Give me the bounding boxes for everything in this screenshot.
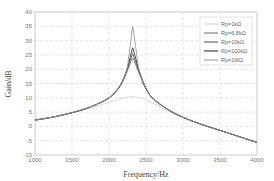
y-tick-label: 25 — [25, 52, 32, 58]
y-tick-label: -5 — [27, 138, 33, 144]
y-tick-label: 5 — [29, 109, 33, 115]
x-tick-label: 2000 — [102, 157, 116, 163]
y-tick-label: 30 — [25, 38, 32, 44]
legend: Rp=1kΩRp=6.8kΩRp=10kΩRp=100kΩRp=1MΩ — [200, 17, 252, 65]
legend-label: Rp=6.8kΩ — [221, 30, 246, 36]
y-tick-label: 35 — [25, 23, 32, 29]
x-tick-label: 3500 — [213, 157, 227, 163]
x-axis-label: Frequency/Hz — [123, 170, 169, 179]
x-tick-label: 1500 — [65, 157, 79, 163]
x-tick-label: 2500 — [139, 157, 153, 163]
gain-frequency-chart: -10-50510152025303540 100015002000250030… — [0, 0, 274, 181]
x-tick-label: 4000 — [250, 157, 264, 163]
y-tick-label: 40 — [25, 9, 32, 15]
x-tick-label: 1000 — [28, 157, 42, 163]
y-tick-label: 10 — [25, 95, 32, 101]
legend-label: Rp=1kΩ — [221, 21, 241, 27]
y-axis-ticks: -10-50510152025303540 — [23, 9, 32, 158]
legend-label: Rp=10kΩ — [221, 39, 244, 45]
y-tick-label: 0 — [29, 123, 33, 129]
legend-label: Rp=1MΩ — [221, 57, 243, 63]
y-axis-label: Gain/dB — [4, 70, 13, 97]
x-axis-ticks: 1000150020002500300035004000 — [28, 157, 264, 163]
legend-label: Rp=100kΩ — [221, 48, 247, 54]
x-tick-label: 3000 — [176, 157, 190, 163]
y-tick-label: 15 — [25, 81, 32, 87]
y-tick-label: 20 — [25, 66, 32, 72]
